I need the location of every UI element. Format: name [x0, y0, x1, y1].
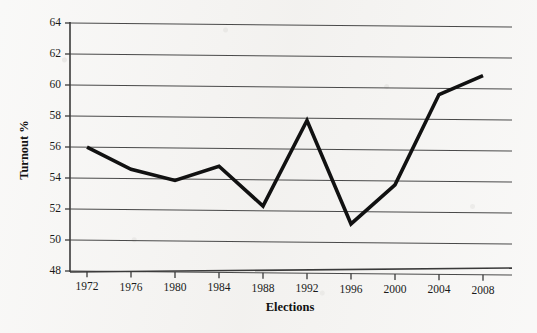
y-axis-title: Turnout % — [17, 120, 31, 180]
x-tick-label: 1980 — [164, 281, 187, 293]
y-tick-label: 54 — [50, 171, 62, 183]
x-axis-tick-labels: 1972197619801984198819921996200020042008 — [76, 280, 495, 296]
y-tick-label: 64 — [50, 16, 62, 28]
gridline-58 — [70, 116, 512, 120]
x-tick-label: 2004 — [428, 283, 451, 295]
y-axis-tick-labels: 485052545658606264 — [50, 16, 62, 276]
y-tick-label: 58 — [50, 109, 62, 121]
y-tick-label: 56 — [50, 140, 62, 152]
y-tick-label: 48 — [50, 264, 62, 276]
chart-canvas: 485052545658606264 197219761980198419881… — [0, 0, 537, 333]
x-tick-label: 1988 — [252, 282, 275, 294]
x-tick-label: 2000 — [384, 283, 407, 295]
line-chart: 485052545658606264 197219761980198419881… — [0, 0, 537, 333]
y-tick-label: 50 — [50, 233, 62, 245]
gridline-62 — [70, 54, 512, 58]
x-tick-label: 1996 — [340, 283, 363, 295]
x-tick-label: 1984 — [208, 281, 231, 293]
y-tick-label: 60 — [50, 78, 62, 90]
y-tick-label: 62 — [50, 47, 62, 59]
gridline-50 — [70, 240, 512, 244]
x-axis-title: Elections — [266, 300, 315, 314]
gridline-60 — [70, 85, 512, 89]
gridline-64 — [70, 23, 512, 27]
x-tick-label: 1976 — [120, 281, 143, 293]
gridline-52 — [70, 209, 512, 213]
x-axis-line — [70, 268, 512, 272]
x-tick-label: 1972 — [76, 280, 99, 292]
gridline-54 — [70, 178, 512, 182]
x-tick-label: 2008 — [472, 284, 495, 296]
y-tick-label: 52 — [50, 202, 62, 214]
x-tick-label: 1992 — [296, 282, 319, 294]
